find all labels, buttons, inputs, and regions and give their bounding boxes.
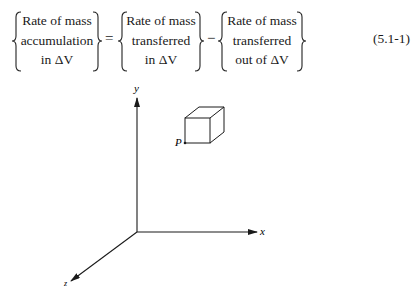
y-axis-label: y	[133, 82, 139, 94]
point-p-label: P	[174, 136, 182, 148]
z-axis-label: z	[63, 279, 68, 288]
control-volume-cube	[185, 107, 224, 143]
coordinate-diagram: y x z P	[0, 0, 415, 298]
x-axis-label: x	[259, 225, 265, 237]
point-p-marker	[184, 142, 187, 145]
z-axis	[71, 232, 137, 281]
